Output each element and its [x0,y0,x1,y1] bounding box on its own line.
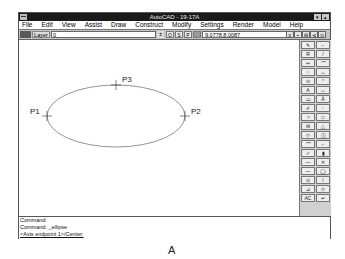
toolbox-button[interactable]: — [301,167,315,175]
toolbar-tool-4[interactable]: ⊲ [310,31,318,38]
tablet-icon[interactable] [193,31,201,38]
toolbox-button[interactable]: Å [316,95,330,103]
point-label-p3: P3 [122,75,132,84]
toolbar-tool-1[interactable]: ≡ [286,31,294,38]
paper-space-button[interactable]: P [184,31,192,38]
layer-dropdown-button[interactable]: ± [157,31,164,38]
toolbox-button[interactable]: ⌒ [301,140,315,148]
toolbar-tool-5[interactable]: ⊙ [318,31,326,38]
toolbox-button[interactable]: ◯ [316,167,330,175]
toolbar-tool-2[interactable]: ▪ [294,31,302,38]
point-label-p1: P1 [30,107,40,116]
menu-render[interactable]: Render [233,21,254,29]
toolbox-button[interactable]: ✐ [301,104,315,112]
toolbox-button[interactable]: ✓ [301,149,315,157]
command-line: Command: [19,217,330,224]
toolbox-button[interactable]: A [301,86,315,94]
toolbox-button[interactable]: ◇ [301,131,315,139]
toolbox-button[interactable]: / [316,176,330,184]
menu-draw[interactable]: Draw [111,21,126,29]
toolbox-button[interactable]: ⌐ [316,140,330,148]
menu-model[interactable]: Model [263,21,281,29]
menu-modify[interactable]: Modify [172,21,191,29]
toolbox-button[interactable]: ◦ [316,104,330,112]
toolbox-button[interactable]: ⌃ [316,77,330,85]
toolbox-button[interactable]: ↵ [316,194,330,202]
toolbox-button[interactable]: ↩ [301,59,315,67]
toolbox-button[interactable]: ⊙ [301,176,315,184]
toolbox-button[interactable]: ✕ [316,158,330,166]
menu-file[interactable]: File [22,21,32,29]
toolbox-button[interactable]: △ [316,122,330,130]
toolbox-button[interactable]: ◇ [316,185,330,193]
menu-assist[interactable]: Assist [85,21,102,29]
toolbar: Layer 0 ± O S P 9.0778,8.0087 ≡ ▪ ⊟ ⊲ ⊙ [19,30,330,40]
toolbox-button[interactable]: — [301,158,315,166]
toolbox-button[interactable]: ⊙ [301,77,315,85]
toolbox-button[interactable]: ▮ [316,149,330,157]
toolbar-tool-3[interactable]: ⊟ [302,31,310,38]
toolbox-button[interactable]: AC [301,194,315,202]
command-line: Command: _ellipse [19,224,330,231]
toolbox-button[interactable]: ⌓ [316,68,330,76]
layer-field[interactable]: 0 [51,31,156,38]
toolbox-button[interactable]: □ [316,113,330,121]
menu-edit[interactable]: Edit [41,21,52,29]
toolbox-button[interactable]: ⊟ [301,122,315,130]
minimize-button[interactable]: ▾ [314,14,321,20]
window-title: AutoCAD - 19-17A [19,13,330,21]
layer-color-swatch[interactable] [20,31,31,38]
toolbox-button[interactable]: ◫ [316,131,330,139]
drawing-area[interactable]: P1 P2 P3 [19,40,299,216]
ortho-button[interactable]: O [166,31,174,38]
title-bar: AutoCAD - 19-17A ▾ ▴ [19,13,330,21]
toolbox-button[interactable]: ⌒ [316,59,330,67]
maximize-button[interactable]: ▴ [322,14,329,20]
autocad-window: AutoCAD - 19-17A ▾ ▴ File Edit View Assi… [18,12,331,239]
toolbox-button[interactable]: R [301,50,315,58]
command-prompt[interactable]: <Axis endpoint 1>/Center: [19,231,330,238]
toolbox-button[interactable]: ▭ [301,95,315,103]
toolbox-button[interactable]: ⌐ [316,41,330,49]
layer-button[interactable]: Layer [32,31,50,38]
toolbox-button[interactable]: / [316,50,330,58]
toolbox-button[interactable]: ⊿ [301,185,315,193]
menu-settings[interactable]: Settings [200,21,224,29]
menu-view[interactable]: View [62,21,76,29]
toolbox-button[interactable]: ✎ [301,41,315,49]
snap-button[interactable]: S [175,31,183,38]
toolbox-panel: ✎ ⌐ R / ↩ ⌒ ○ ⌓ ⊙ ⌃ A ↔ ▭ Å ✐ ◦ ⌗ □ ⊟ △ … [299,40,331,216]
point-label-p2: P2 [191,107,201,116]
command-area[interactable]: Command: Command: _ellipse <Axis endpoin… [19,216,330,239]
toolbox-button[interactable]: ↔ [316,86,330,94]
menu-help[interactable]: Help [290,21,303,29]
ellipse-drawing: P1 P2 P3 [19,40,299,216]
figure-caption: A [168,244,175,256]
toolbox-button[interactable]: ○ [301,68,315,76]
menu-construct[interactable]: Construct [135,21,163,29]
menu-bar: File Edit View Assist Draw Construct Mod… [19,21,330,30]
toolbox-button[interactable]: ⌗ [301,113,315,121]
